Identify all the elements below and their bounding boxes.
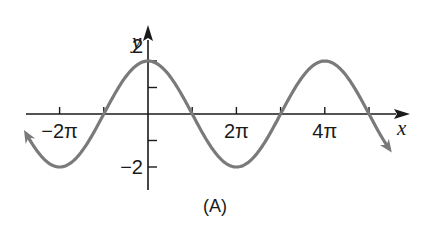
x-axis-label: x <box>396 116 407 140</box>
x-tick-label: −2π <box>41 120 78 142</box>
figure-caption: (A) <box>0 196 430 217</box>
sinusoid-chart: −2π2π4π2−2 x y <box>0 0 430 227</box>
x-tick-label: 2π <box>224 120 249 142</box>
y-tick-label: −2 <box>120 156 143 178</box>
y-axis-label: y <box>130 29 142 53</box>
y-axis-arrow-icon <box>143 25 153 41</box>
axes <box>26 25 410 190</box>
x-tick-label: 4π <box>312 120 337 142</box>
